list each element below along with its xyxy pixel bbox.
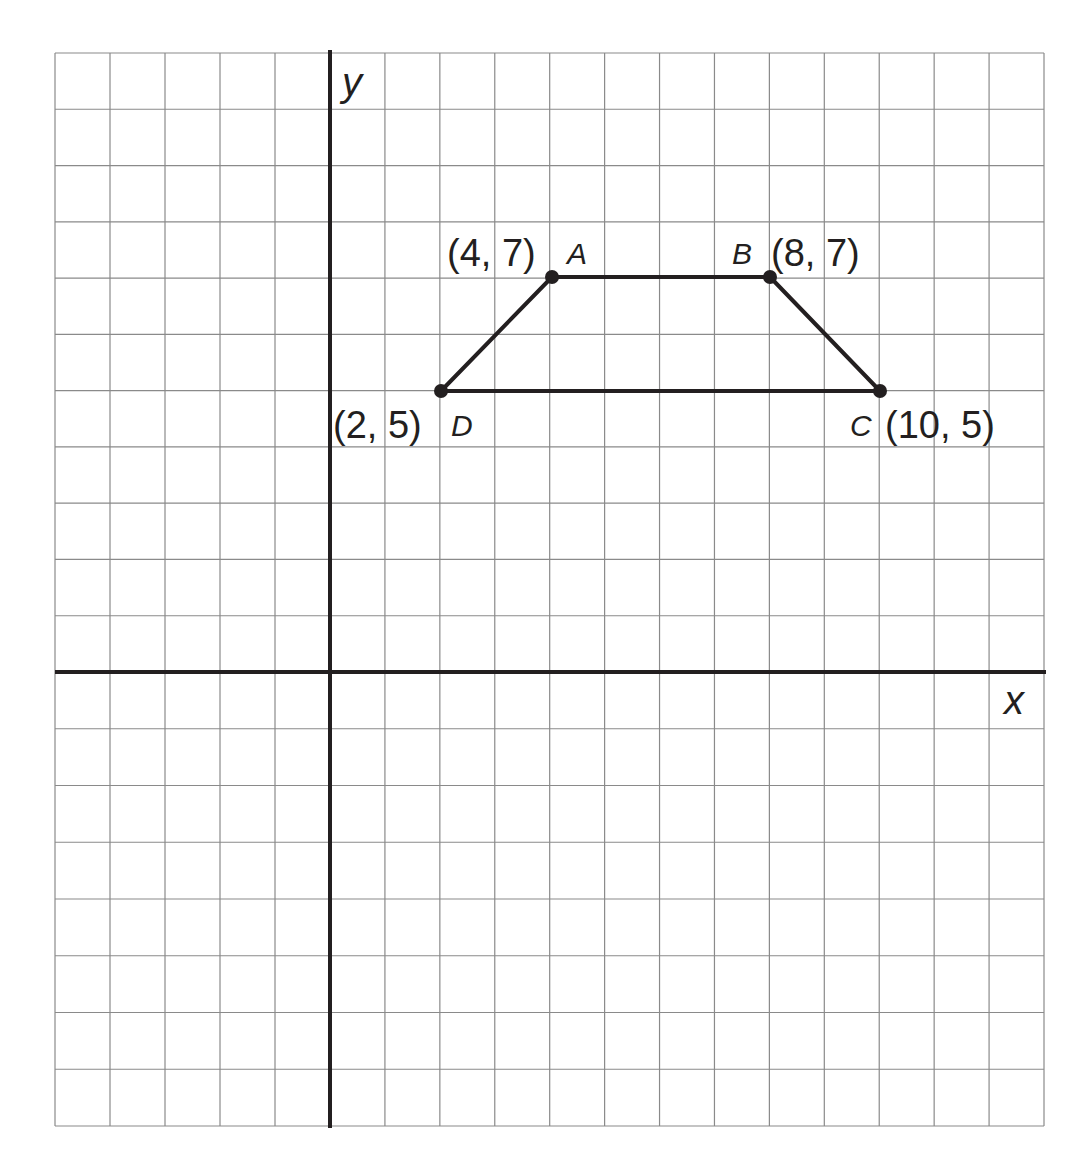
vertex-c-name: C xyxy=(850,409,872,442)
grid-lines xyxy=(55,53,1044,1126)
vertex-b-coordinate: (8, 7) xyxy=(771,232,860,274)
vertex-c-point xyxy=(873,384,887,398)
vertex-d-coordinate: (2, 5) xyxy=(333,404,422,446)
vertex-a-name: A xyxy=(565,237,587,270)
vertex-d-point xyxy=(434,384,448,398)
coordinate-plane: y x (4, 7) A B (8, 7) (2, 5) D C (10, 5) xyxy=(0,0,1091,1158)
y-axis-label: y xyxy=(339,60,365,104)
vertex-d-name: D xyxy=(451,409,473,442)
vertex-c-coordinate: (10, 5) xyxy=(885,404,995,446)
vertex-b-name: B xyxy=(732,237,752,270)
x-axis-label: x xyxy=(1002,678,1026,722)
vertex-a-point xyxy=(545,270,559,284)
vertex-a-coordinate: (4, 7) xyxy=(447,232,536,274)
